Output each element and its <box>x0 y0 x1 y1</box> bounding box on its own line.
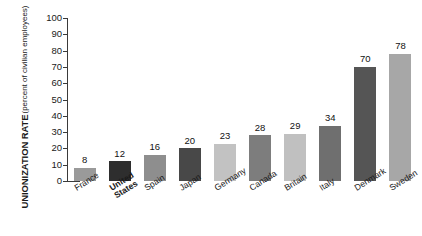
x-label-slot: France <box>67 183 102 236</box>
x-label-slot: Germany <box>207 183 242 236</box>
y-tick-label-70: 70 <box>38 62 62 72</box>
bar-value-label: 8 <box>82 155 87 165</box>
y-axis-tick-labels: 1009080706050403020100 <box>36 0 62 236</box>
bar <box>319 126 341 181</box>
bar-value-label: 16 <box>149 142 160 152</box>
bar-value-label: 12 <box>114 149 125 159</box>
bar-value-label: 34 <box>325 113 336 123</box>
bar-slot: 20 <box>172 18 207 181</box>
x-label-slot: Spain <box>137 183 172 236</box>
y-tick-label-60: 60 <box>38 78 62 88</box>
y-tick-label-100: 100 <box>38 13 62 23</box>
x-label-slot: Italy <box>313 183 348 236</box>
y-tick-label-40: 40 <box>38 111 62 121</box>
y-tick-label-80: 80 <box>38 46 62 56</box>
x-label-slot: Canada <box>243 183 278 236</box>
bar-slot: 8 <box>67 18 102 181</box>
y-axis-title-subtitle: (percent of civilian employees) <box>21 5 29 113</box>
y-tick-label-90: 90 <box>38 29 62 39</box>
bar-value-label: 28 <box>255 123 266 133</box>
y-tick-label-50: 50 <box>38 95 62 105</box>
x-label-slot: Britain <box>278 183 313 236</box>
unionization-rate-bar-chart: UNIONIZATION RATE (percent of civilian e… <box>0 0 422 236</box>
bar-slot: 34 <box>313 18 348 181</box>
bar-value-label: 23 <box>220 131 231 141</box>
x-label-slot: Japan <box>172 183 207 236</box>
x-label-slot: United States <box>102 183 137 236</box>
bar-slot: 70 <box>348 18 383 181</box>
bar-value-label: 29 <box>290 121 301 131</box>
x-axis-category-labels: FranceUnited StatesSpainJapanGermanyCana… <box>67 183 418 236</box>
bar <box>389 54 411 181</box>
bar-slot: 28 <box>243 18 278 181</box>
x-label-slot: Sweden <box>383 183 418 236</box>
y-tick-label-0: 0 <box>38 176 62 186</box>
bar-value-label: 70 <box>360 54 371 64</box>
x-label-slot: Denmark <box>348 183 383 236</box>
plot-area: 8121620232829347078 <box>67 18 418 181</box>
bar-slot: 29 <box>278 18 313 181</box>
bar-value-label: 20 <box>185 136 196 146</box>
bar-slot: 16 <box>137 18 172 181</box>
y-tick-label-10: 10 <box>38 160 62 170</box>
y-tick-label-20: 20 <box>38 143 62 153</box>
y-tick-label-30: 30 <box>38 127 62 137</box>
bar-slot: 78 <box>383 18 418 181</box>
bar-slot: 23 <box>207 18 242 181</box>
bar-value-label: 78 <box>395 41 406 51</box>
y-axis-title-main: UNIONIZATION RATE <box>20 115 30 209</box>
bar <box>354 67 376 181</box>
bar-slot: 12 <box>102 18 137 181</box>
